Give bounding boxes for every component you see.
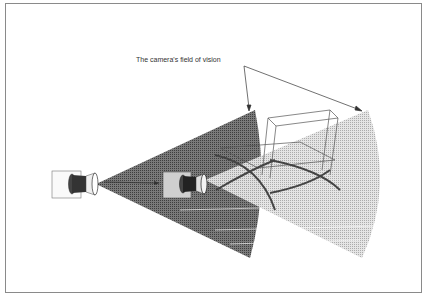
camera-diagram [0, 0, 429, 299]
field-of-vision-label: The camera's field of vision [136, 56, 221, 63]
callout-arrows [244, 66, 362, 111]
camera-1-icon [52, 171, 98, 198]
